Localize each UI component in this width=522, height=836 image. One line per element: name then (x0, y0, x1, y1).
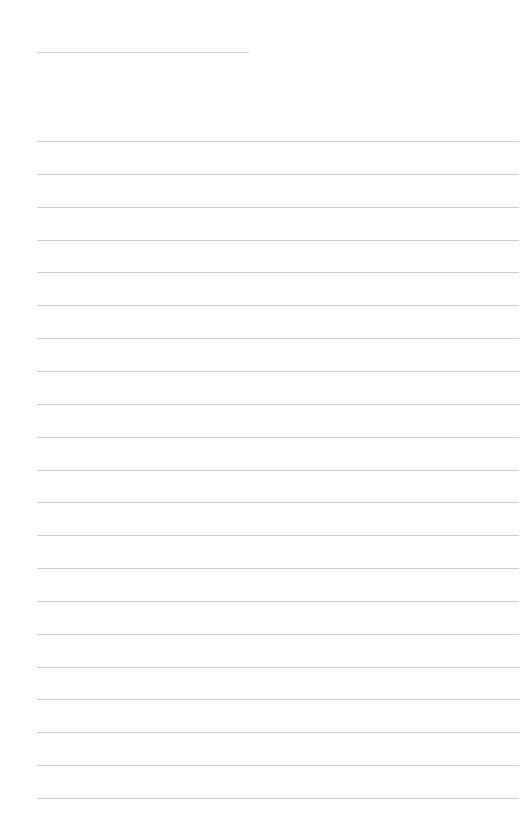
ruled-line (37, 207, 519, 208)
ruled-line (37, 174, 519, 175)
ruled-line (37, 634, 519, 635)
ruled-line (37, 371, 519, 372)
ruled-line (37, 240, 519, 241)
ruled-line (37, 338, 519, 339)
ruled-lines (0, 0, 522, 836)
ruled-line (37, 437, 519, 438)
ruled-line (37, 141, 519, 142)
ruled-line (37, 568, 519, 569)
ruled-line (37, 535, 519, 536)
ruled-line (37, 667, 519, 668)
ruled-line (37, 699, 519, 700)
lined-page (0, 0, 522, 836)
ruled-line (37, 305, 519, 306)
ruled-line (37, 765, 519, 766)
ruled-line (37, 502, 519, 503)
ruled-line (37, 470, 519, 471)
ruled-line (37, 601, 519, 602)
ruled-line (37, 798, 519, 799)
ruled-line (37, 732, 519, 733)
ruled-line (37, 404, 519, 405)
ruled-line (37, 272, 519, 273)
